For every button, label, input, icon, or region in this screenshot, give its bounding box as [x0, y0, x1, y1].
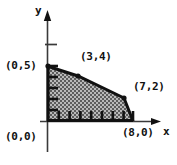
vertex-label-0-5: (0,5) [5, 60, 37, 71]
vertex-dot-3-4 [75, 73, 80, 78]
vertex-label-0-0: (0,0) [5, 131, 37, 142]
vertex-label-3-4: (3,4) [80, 51, 112, 62]
x-axis-arrowhead [151, 118, 161, 125]
vertex-dot-7-2 [121, 95, 126, 100]
vertex-dot-0-5 [45, 63, 50, 68]
y-axis-label: y [35, 5, 42, 16]
x-axis-label: x [163, 126, 170, 137]
vertex-label-8-0: (8,0) [122, 127, 154, 138]
y-axis-arrowhead [44, 10, 51, 21]
vertex-label-7-2: (7,2) [133, 81, 165, 92]
coordinate-plot-figure: y x (0,5) (3,4) (7,2) (8,0) (0,0) [0, 0, 177, 165]
